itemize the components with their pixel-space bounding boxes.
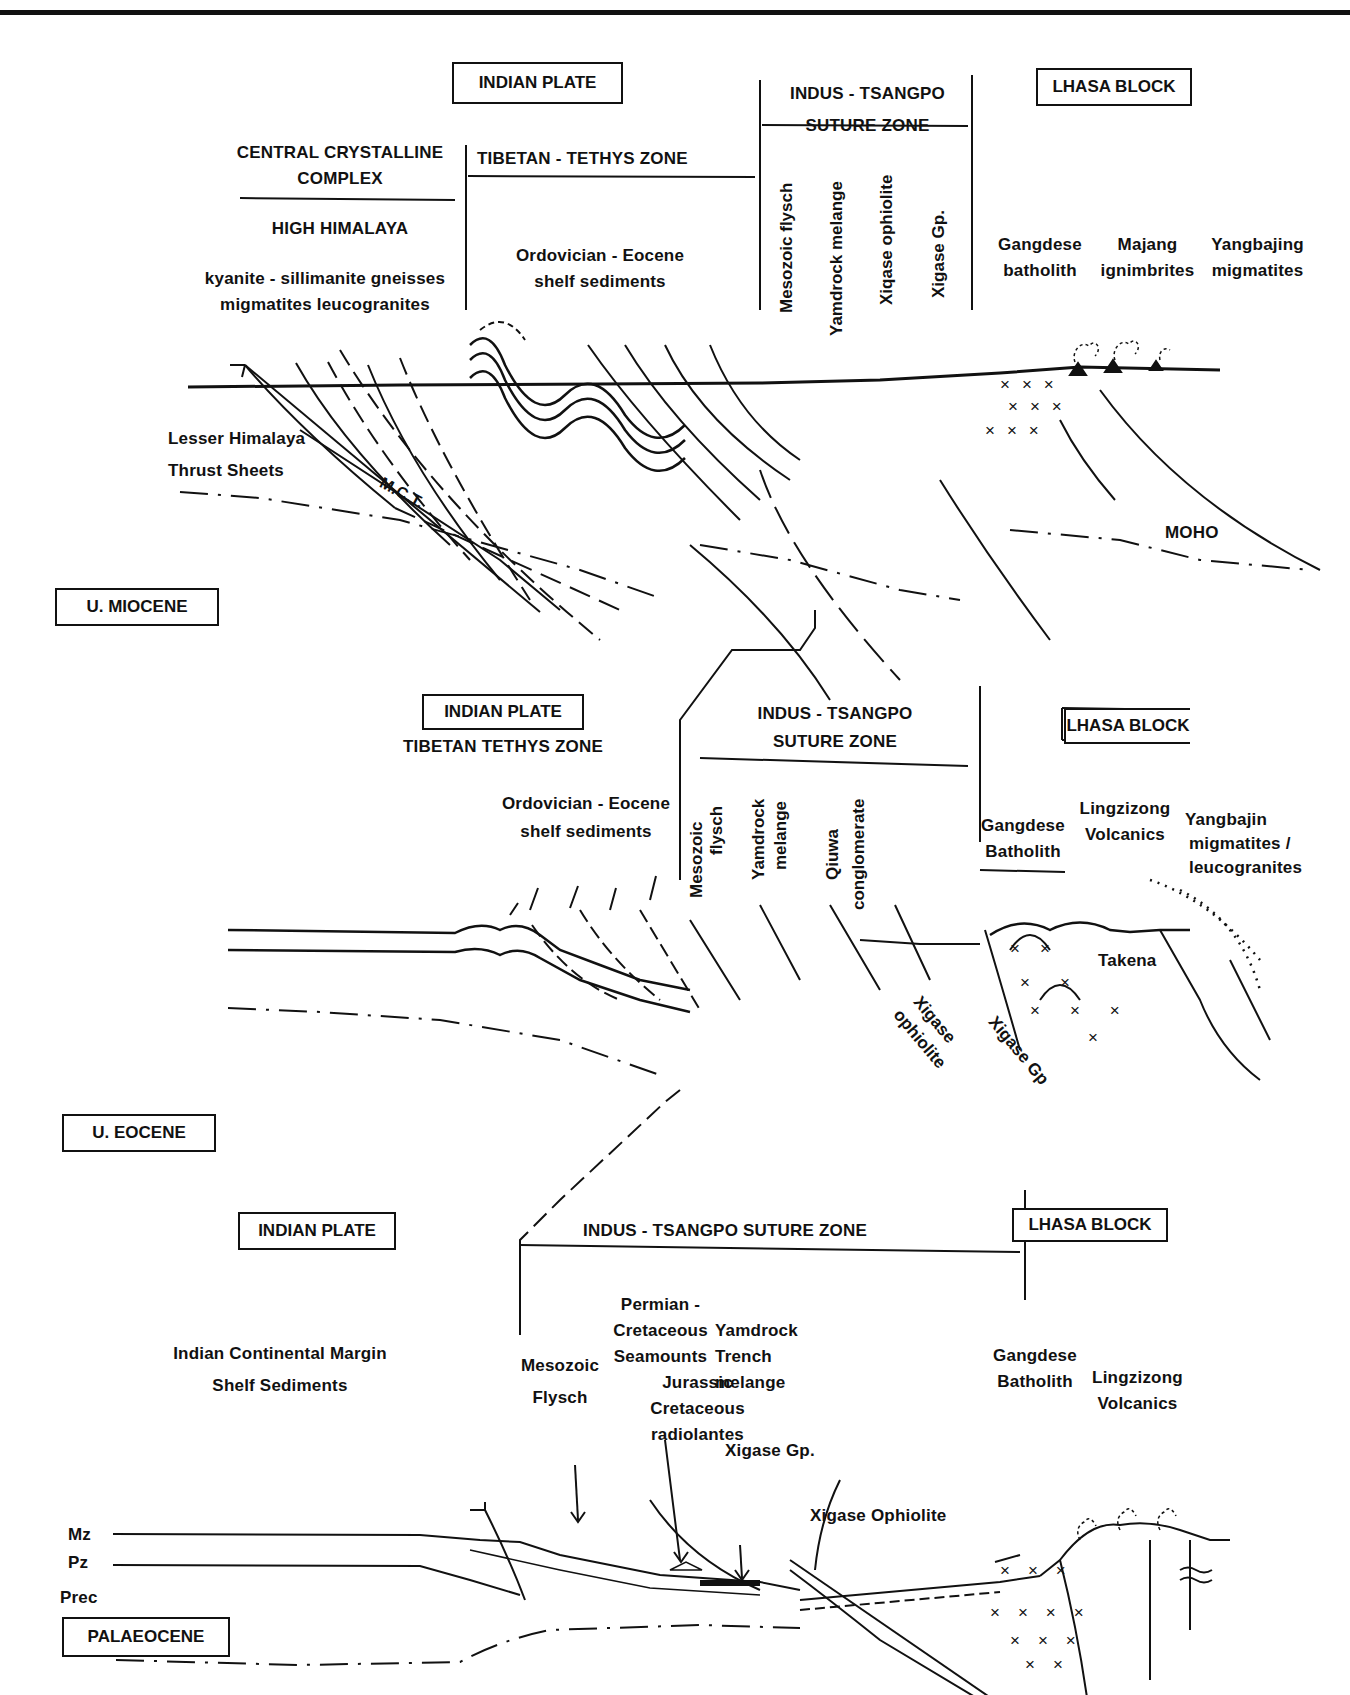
yamdrock-melange-label-1: Yamdrock [748, 799, 770, 880]
qiuwa-conglomerate-label-2: conglomerate [848, 799, 870, 910]
yangbajing-migmatites-label: Yangbajing migmatites [1205, 232, 1310, 284]
batholith-x-pattern: ××× [1008, 394, 1074, 420]
indian-plate-box: INDIAN PLATE [422, 694, 584, 730]
yamdrock-melange-label-2: melange [770, 801, 792, 870]
batholith-x-pattern: ×× [1020, 970, 1100, 996]
age-box-upper-eocene: U. EOCENE [62, 1114, 216, 1152]
tethys-shelf-sediments: Ordovician - Eocene shelf sediments [486, 790, 686, 846]
strata-label-mz: Mz [68, 1522, 91, 1548]
xigase-ophiolite-label: Xiqase ophiolite [876, 175, 898, 305]
mesozoic-flysch-label-2: flysch [706, 806, 728, 855]
moho-label: MOHO [1165, 520, 1219, 546]
yangbajin-migmatites-label: Yangbajin migmatites / leucogranites [1185, 808, 1302, 880]
xigase-group-label: Xigase Gp. [928, 210, 950, 298]
batholith-x-pattern: ××× [985, 418, 1051, 444]
batholith-x-pattern: ××× [1000, 1558, 1084, 1584]
indian-plate-box: INDIAN PLATE [452, 62, 623, 104]
lhasa-block-box: LHASA BLOCK [1036, 68, 1192, 106]
xigase-group-label: Xigase Gp. [725, 1438, 815, 1464]
gangdese-batholith-label: Gangdese Batholith [978, 813, 1068, 865]
takena-label: Takena [1098, 948, 1157, 974]
suture-zone-heading: INDUS - TSANGPO SUTURE ZONE [735, 700, 935, 756]
seamounts-label: Permian - Cretaceous Seamounts [608, 1292, 713, 1370]
indian-plate-box: INDIAN PLATE [238, 1212, 396, 1250]
strata-label-pz: Pz [68, 1550, 88, 1576]
lhasa-block-box: LHASA BLOCK [1064, 708, 1190, 744]
lingzizong-volcanics-label: Lingzizong Volcanics [1090, 1365, 1185, 1417]
age-box-upper-miocene: U. MIOCENE [55, 588, 219, 626]
suture-zone-heading: INDUS - TSANGPO SUTURE ZONE [583, 1218, 867, 1244]
central-crystalline-heading: CENTRAL CRYSTALLINE COMPLEX [222, 140, 458, 192]
majang-ignimbrites-label: Majang ignimbrites [1090, 232, 1205, 284]
gangdese-batholith-label: Gangdese Batholith [990, 1343, 1080, 1395]
xigase-ophiolite-label: Xigase Ophiolite [810, 1503, 946, 1529]
high-himalaya-heading: HIGH HIMALAYA [222, 216, 458, 242]
tethys-shelf-sediments: Ordovician - Eocene shelf sediments [490, 243, 710, 295]
lesser-himalaya-label: Lesser Himalaya Thrust Sheets [168, 423, 305, 487]
batholith-x-pattern: ××× [1030, 998, 1150, 1024]
high-himalaya-rocks: kyanite - sillimanite gneisses migmatite… [190, 266, 460, 318]
batholith-x-pattern: ×× [1025, 1652, 1081, 1678]
gangdese-batholith-label: Gangdese batholith [985, 232, 1095, 284]
batholith-x-pattern: ××× [1010, 1628, 1094, 1654]
batholith-x-pattern: ×××× [990, 1600, 1102, 1626]
mesozoic-flysch-label: Mesozoic flysch [776, 183, 798, 313]
batholith-x-pattern: ×× [1010, 936, 1070, 962]
mesozoic-flysch-label: Mesozoic Flysch [515, 1350, 605, 1414]
batholith-x-pattern: × [1088, 1025, 1098, 1051]
qiuwa-conglomerate-label-1: Qiuwa [822, 829, 844, 880]
yamdrock-melange-label: Yamdrock Trench melange [715, 1318, 798, 1396]
lingzizong-volcanics-label: Lingzizong Volcanics [1075, 796, 1175, 848]
tibetan-tethys-heading: TIBETAN TETHYS ZONE [403, 734, 603, 760]
yamdrock-melange-label: Yamdrock melange [826, 181, 848, 336]
suture-zone-heading: INDUS - TSANGPO SUTURE ZONE [765, 78, 970, 142]
mesozoic-flysch-label-1: Mesozoic [686, 821, 708, 898]
strata-label-prec: Prec [60, 1585, 98, 1611]
age-box-palaeocene: PALAEOCENE [62, 1617, 230, 1657]
indian-margin-label: Indian Continental Margin Shelf Sediment… [160, 1338, 400, 1402]
tibetan-tethys-heading: TIBETAN - TETHYS ZONE [477, 146, 688, 172]
lhasa-block-box: LHASA BLOCK [1012, 1208, 1168, 1242]
